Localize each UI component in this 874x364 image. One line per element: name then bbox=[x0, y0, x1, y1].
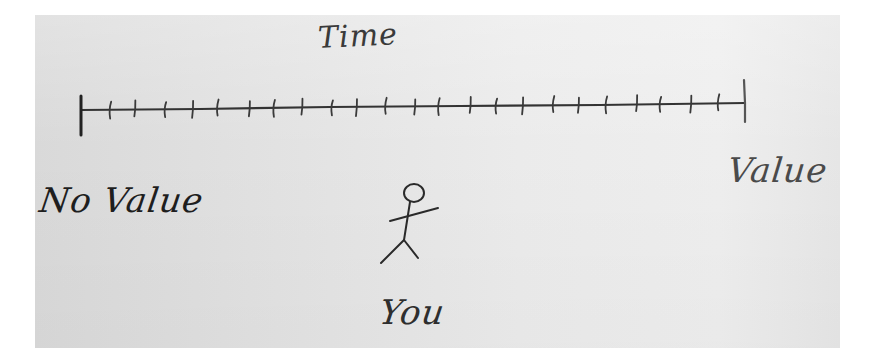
timeline-tick bbox=[690, 96, 691, 113]
timeline-end-cap bbox=[744, 80, 745, 122]
no-value-label: No Value bbox=[37, 180, 206, 220]
timeline-tick bbox=[553, 96, 555, 112]
axis-title: Time bbox=[317, 16, 399, 55]
timeline-tick bbox=[217, 100, 219, 116]
stick-figure-icon bbox=[381, 184, 438, 263]
timeline-tick bbox=[470, 97, 471, 113]
value-label: Value bbox=[726, 150, 830, 190]
timeline-ticks bbox=[110, 94, 720, 118]
timeline-tick bbox=[356, 99, 357, 116]
timeline-tick bbox=[192, 101, 193, 118]
timeline-tick bbox=[414, 100, 415, 115]
timeline-tick bbox=[578, 98, 579, 113]
timeline-tick bbox=[301, 99, 302, 115]
timeline-tick bbox=[636, 95, 637, 111]
timeline-axis-line bbox=[81, 103, 745, 110]
timeline-tick bbox=[134, 100, 135, 116]
timeline-tick bbox=[522, 97, 523, 114]
timeline-tick bbox=[249, 101, 250, 116]
you-label: You bbox=[377, 292, 447, 332]
